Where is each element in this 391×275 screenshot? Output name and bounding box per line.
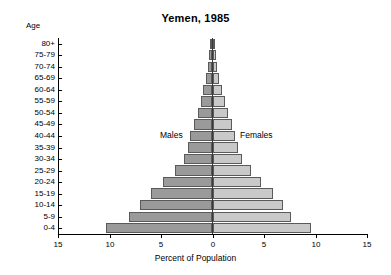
y-axis-tick [58, 124, 62, 125]
x-axis-tick [110, 234, 111, 238]
bar-male-25-29 [175, 165, 212, 175]
bar-female-70-74 [213, 62, 218, 72]
y-axis-label-75-79: 75-79 [7, 51, 55, 59]
y-axis-label-25-29: 25-29 [7, 167, 55, 175]
y-axis-label-30-34: 30-34 [7, 155, 55, 163]
bar-female-25-29 [213, 165, 251, 175]
bar-female-50-54 [213, 108, 228, 118]
bar-male-30-34 [184, 154, 213, 164]
y-axis-tick [58, 194, 62, 195]
bar-male-5-9 [129, 212, 212, 222]
y-axis-tick [58, 67, 62, 68]
y-axis-tick [58, 113, 62, 114]
x-axis-tick [58, 234, 59, 238]
y-axis-tick [58, 44, 62, 45]
center-axis-line [212, 38, 213, 234]
y-axis-label-80plus: 80+ [7, 40, 55, 48]
y-axis-label-0-4: 0-4 [7, 224, 55, 232]
bar-female-55-59 [213, 96, 225, 106]
bar-male-10-14 [140, 200, 212, 210]
y-axis-tick [58, 101, 62, 102]
bar-female-60-64 [213, 85, 222, 95]
y-axis-label-45-49: 45-49 [7, 120, 55, 128]
bar-female-5-9 [213, 212, 291, 222]
y-axis-tick [58, 90, 62, 91]
bar-male-15-19 [151, 188, 213, 198]
y-axis-tick [58, 148, 62, 149]
y-axis-label-35-39: 35-39 [7, 144, 55, 152]
y-axis-label-10-14: 10-14 [7, 201, 55, 209]
bar-male-55-59 [201, 96, 213, 106]
x-axis-label-0: 15 [43, 240, 73, 249]
y-axis-tick [58, 171, 62, 172]
bar-male-50-54 [198, 108, 213, 118]
bar-female-35-39 [213, 142, 239, 152]
bar-female-65-69 [213, 73, 220, 83]
x-axis-label-2: 5 [146, 240, 176, 249]
x-axis-label-3: 0 [198, 240, 228, 249]
y-axis-label-55-59: 55-59 [7, 97, 55, 105]
chart-title: Yemen, 1985 [0, 12, 391, 24]
y-axis-label-50-54: 50-54 [7, 109, 55, 117]
y-axis-tick [58, 159, 62, 160]
age-axis-label: Age [26, 21, 40, 30]
bar-male-40-44 [190, 131, 212, 141]
bar-female-30-34 [213, 154, 243, 164]
y-axis-tick [58, 78, 62, 79]
x-axis-label-5: 10 [301, 240, 331, 249]
y-axis-label-20-24: 20-24 [7, 178, 55, 186]
bar-female-20-24 [213, 177, 261, 187]
x-axis-tick [316, 234, 317, 238]
x-axis-tick [213, 234, 214, 238]
y-axis-label-65-69: 65-69 [7, 74, 55, 82]
x-axis-label-6: 15 [352, 240, 382, 249]
y-axis-tick [58, 55, 62, 56]
bar-female-0-4 [213, 223, 312, 233]
series-label-males: Males [160, 130, 183, 140]
y-axis-tick [58, 182, 62, 183]
x-axis-title: Percent of Population [0, 253, 391, 263]
population-pyramid-chart: Yemen, 1985 Age 80+75-7970-7465-6960-645… [0, 0, 391, 275]
y-axis-tick [58, 217, 62, 218]
x-axis-tick [264, 234, 265, 238]
x-axis-tick [367, 234, 368, 238]
y-axis-label-70-74: 70-74 [7, 63, 55, 71]
bar-female-15-19 [213, 188, 274, 198]
bar-female-10-14 [213, 200, 283, 210]
bar-male-20-24 [163, 177, 212, 187]
y-axis-label-15-19: 15-19 [7, 190, 55, 198]
x-axis-label-4: 5 [249, 240, 279, 249]
y-axis-tick [58, 228, 62, 229]
bar-male-0-4 [106, 223, 212, 233]
x-axis-tick [161, 234, 162, 238]
y-axis-tick [58, 136, 62, 137]
bar-female-45-49 [213, 119, 232, 129]
bar-male-35-39 [188, 142, 213, 152]
y-axis-label-60-64: 60-64 [7, 86, 55, 94]
y-axis-label-5-9: 5-9 [7, 213, 55, 221]
x-axis-label-1: 10 [95, 240, 125, 249]
y-axis-tick [58, 205, 62, 206]
bar-male-45-49 [194, 119, 213, 129]
bar-female-40-44 [213, 131, 236, 141]
y-axis-label-40-44: 40-44 [7, 132, 55, 140]
series-label-females: Females [240, 130, 273, 140]
